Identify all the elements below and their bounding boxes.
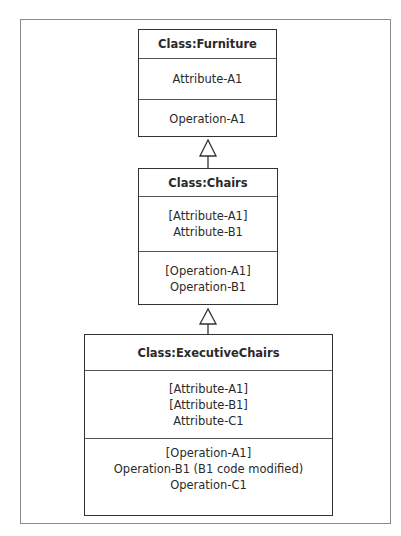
attributes-section: [Attribute-A1] Attribute-B1	[139, 196, 277, 251]
operations-section: [Operation-A1] Operation-B1	[139, 251, 277, 305]
attribute: [Attribute-B1]	[169, 397, 248, 413]
attributes-section: [Attribute-A1] [Attribute-B1] Attribute-…	[85, 370, 332, 438]
class-furniture: Class:Furniture Attribute-A1 Operation-A…	[138, 29, 277, 137]
operations-section: Operation-A1	[139, 99, 276, 138]
operation: Operation-C1	[170, 477, 247, 493]
class-name: Class:Furniture	[139, 30, 276, 58]
attribute: [Attribute-A1]	[169, 381, 248, 397]
operation: [Operation-A1]	[166, 445, 251, 461]
class-chairs: Class:Chairs [Attribute-A1] Attribute-B1…	[138, 168, 278, 305]
operation: Operation-A1	[169, 111, 245, 127]
operation: Operation-B1	[170, 279, 246, 295]
operation: [Operation-A1]	[165, 263, 250, 279]
operation: Operation-B1 (B1 code modified)	[114, 461, 303, 477]
generalization-arrow-icon	[196, 305, 220, 335]
attribute: Attribute-A1	[173, 71, 243, 87]
class-name: Class:Chairs	[139, 169, 277, 196]
attribute: Attribute-C1	[173, 413, 243, 429]
operations-section: [Operation-A1] Operation-B1 (B1 code mod…	[85, 438, 332, 514]
generalization-arrow-icon	[196, 137, 220, 169]
attribute: Attribute-B1	[173, 224, 243, 240]
class-executive-chairs: Class:ExecutiveChairs [Attribute-A1] [At…	[84, 334, 333, 516]
attribute: [Attribute-A1]	[169, 208, 248, 224]
attributes-section: Attribute-A1	[139, 58, 276, 99]
class-name: Class:ExecutiveChairs	[85, 335, 332, 370]
